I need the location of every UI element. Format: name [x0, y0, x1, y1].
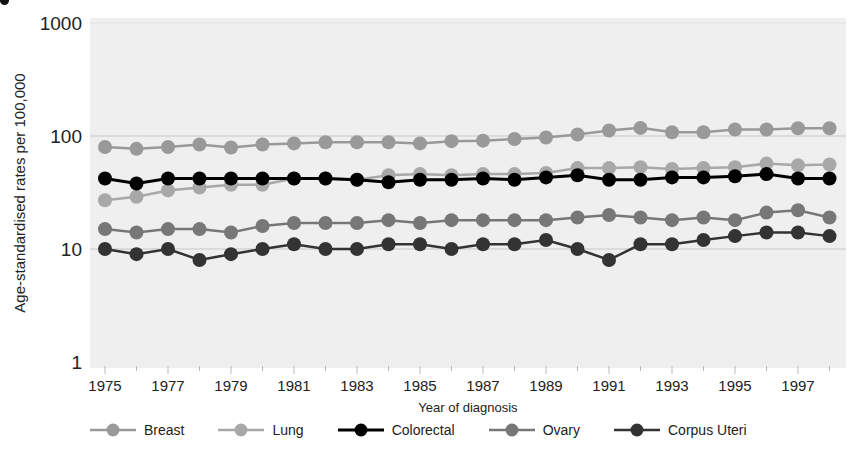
data-point: [224, 225, 238, 239]
data-point: [791, 172, 805, 186]
x-tick-label: 1991: [592, 377, 625, 394]
data-point: [571, 211, 585, 225]
data-point: [161, 172, 175, 186]
data-point: [697, 211, 711, 225]
data-point: [760, 167, 774, 181]
data-point: [665, 237, 679, 251]
data-point: [445, 134, 459, 148]
data-point: [665, 213, 679, 227]
data-point: [98, 193, 112, 207]
legend-item-breast: Breast: [90, 422, 184, 438]
data-point: [760, 225, 774, 239]
data-point: [350, 216, 364, 230]
data-point: [382, 175, 396, 189]
data-point: [697, 170, 711, 184]
data-point: [98, 140, 112, 154]
legend-label: Ovary: [543, 422, 580, 438]
data-point: [287, 172, 301, 186]
y-tick-label: 10: [61, 239, 82, 260]
data-point: [823, 229, 837, 243]
data-point: [287, 237, 301, 251]
data-point: [823, 157, 837, 171]
data-point: [634, 211, 648, 225]
y-axis-title: Age-standardised rates per 100,000: [11, 73, 28, 312]
data-point: [98, 222, 112, 236]
data-point: [413, 136, 427, 150]
x-tick-label: 1983: [340, 377, 373, 394]
data-point: [634, 237, 648, 251]
data-point: [382, 135, 396, 149]
x-tick-label: 1993: [655, 377, 688, 394]
legend-label: Breast: [144, 422, 184, 438]
data-point: [634, 160, 648, 174]
x-axis: 1975197719791981198319851987198919911993…: [88, 366, 829, 394]
legend-item-corpus-uteri: Corpus Uteri: [614, 422, 747, 438]
legend-label: Corpus Uteri: [668, 422, 747, 438]
data-point: [130, 247, 144, 261]
data-point: [256, 172, 270, 186]
x-tick-label: 1977: [151, 377, 184, 394]
data-point: [508, 213, 522, 227]
data-point: [760, 206, 774, 220]
legend-swatch-corpus-uteri-icon: [614, 422, 660, 438]
data-point: [571, 168, 585, 182]
data-point: [193, 172, 207, 186]
data-point: [382, 237, 396, 251]
data-point: [350, 135, 364, 149]
data-point: [445, 213, 459, 227]
data-point: [476, 172, 490, 186]
x-tick-label: 1979: [214, 377, 247, 394]
legend-swatch-lung-icon: [218, 422, 264, 438]
data-point: [476, 237, 490, 251]
data-point: [319, 135, 333, 149]
data-point: [161, 242, 175, 256]
data-point: [130, 190, 144, 204]
data-point: [728, 123, 742, 137]
data-point: [791, 203, 805, 217]
legend-item-ovary: Ovary: [489, 422, 580, 438]
x-tick-label: 1997: [781, 377, 814, 394]
data-point: [539, 213, 553, 227]
data-point: [413, 237, 427, 251]
data-point: [413, 216, 427, 230]
data-point: [539, 170, 553, 184]
data-point: [130, 142, 144, 156]
y-tick-label: 100: [50, 126, 82, 147]
x-tick-label: 1975: [88, 377, 121, 394]
y-axis: 1101001000: [40, 13, 82, 373]
data-point: [193, 138, 207, 152]
data-point: [665, 125, 679, 139]
data-point: [161, 140, 175, 154]
data-point: [508, 237, 522, 251]
data-point: [256, 219, 270, 233]
x-tick-label: 1985: [403, 377, 436, 394]
data-point: [665, 170, 679, 184]
y-tick-label: 1000: [40, 13, 82, 34]
data-point: [476, 134, 490, 148]
data-point: [319, 242, 333, 256]
legend-label: Lung: [272, 422, 303, 438]
data-point: [508, 132, 522, 146]
data-point: [193, 253, 207, 267]
data-point: [413, 173, 427, 187]
data-point: [287, 216, 301, 230]
data-point: [634, 173, 648, 187]
data-point: [791, 225, 805, 239]
data-point: [791, 158, 805, 172]
legend-item-colorectal: Colorectal: [338, 422, 455, 438]
data-point: [476, 213, 490, 227]
data-point: [602, 208, 616, 222]
data-point: [728, 213, 742, 227]
x-axis-title: Year of diagnosis: [418, 400, 518, 415]
data-point: [634, 121, 648, 135]
data-point: [602, 123, 616, 137]
data-point: [224, 172, 238, 186]
x-tick-label: 1995: [718, 377, 751, 394]
x-tick-label: 1981: [277, 377, 310, 394]
data-point: [287, 136, 301, 150]
data-point: [602, 253, 616, 267]
data-point: [98, 172, 112, 186]
data-point: [224, 247, 238, 261]
data-point: [193, 222, 207, 236]
data-point: [508, 173, 522, 187]
